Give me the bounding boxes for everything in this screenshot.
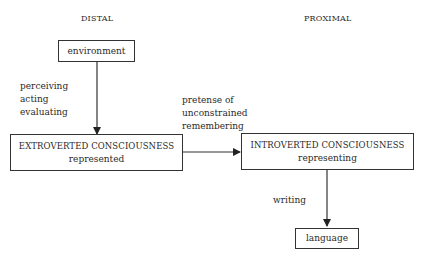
edge-label-introverted-to-language: writing <box>273 194 306 207</box>
extroverted-subtitle: represented <box>69 153 124 166</box>
introverted-subtitle: representing <box>298 152 357 165</box>
introverted-consciousness-node: INTROVERTED CONSCIOUSNESS representing <box>241 133 414 170</box>
edge-label-line: perceiving <box>20 80 68 93</box>
edge-label-environment-to-extroverted: perceiving acting evaluating <box>20 80 68 119</box>
language-label: language <box>306 232 348 245</box>
edge-label-line: pretense of <box>182 94 248 107</box>
extroverted-title: EXTROVERTED CONSCIOUSNESS <box>19 140 174 153</box>
introverted-title: INTROVERTED CONSCIOUSNESS <box>251 139 405 152</box>
edge-label-line: acting <box>20 93 68 106</box>
edge-label-line: evaluating <box>20 106 68 119</box>
edge-label-line: unconstrained <box>182 107 248 120</box>
language-node: language <box>295 228 359 249</box>
edge-label-extroverted-to-introverted: pretense of unconstrained remembering <box>182 94 248 133</box>
edge-label-line: writing <box>273 194 306 207</box>
environment-label: environment <box>68 45 126 58</box>
environment-node: environment <box>58 40 135 62</box>
edge-label-line: remembering <box>182 120 248 133</box>
extroverted-consciousness-node: EXTROVERTED CONSCIOUSNESS represented <box>10 134 183 171</box>
